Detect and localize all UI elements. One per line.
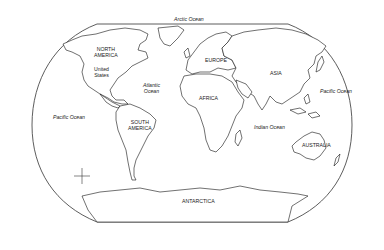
label-antarctica: ANTARCTICA (182, 198, 215, 204)
label-south-america: SOUTH AMERICA (128, 119, 152, 131)
label-asia: ASIA (270, 70, 282, 76)
label-pacific-ocean-east: Pacific Ocean (320, 88, 352, 94)
antarctica-landmass (82, 186, 308, 222)
label-united-states-line2: States (94, 72, 109, 78)
label-atlantic-ocean: Atlantic Ocean (143, 82, 160, 94)
label-indian-ocean: Indian Ocean (254, 124, 285, 130)
label-south-america-line2: AMERICA (128, 125, 152, 131)
label-australia: AUSTRALIA (302, 142, 331, 148)
label-arctic-ocean: Arctic Ocean (174, 16, 204, 22)
label-africa: AFRICA (199, 95, 218, 101)
label-pacific-ocean-west: Pacific Ocean (53, 114, 85, 120)
label-north-america: NORTH AMERICA (94, 46, 118, 58)
label-united-states: United States (94, 66, 109, 78)
label-atlantic-line2: Ocean (143, 88, 160, 94)
label-north-america-line2: AMERICA (94, 52, 118, 58)
label-europe: EUROPE (205, 57, 227, 63)
world-map (0, 0, 384, 250)
